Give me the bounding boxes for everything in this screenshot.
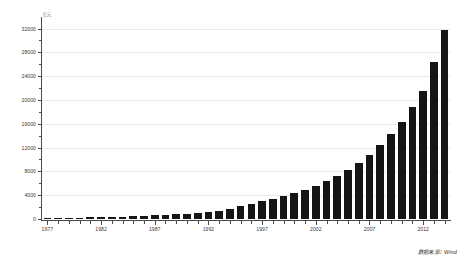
x-axis-label: 2012	[417, 226, 429, 233]
bar	[226, 209, 234, 219]
y-axis-label: 20000	[0, 97, 36, 103]
x-axis-tick	[359, 221, 360, 224]
x-axis-tick	[112, 221, 113, 224]
x-axis-tick	[327, 221, 328, 224]
x-axis-tick	[305, 221, 306, 224]
x-axis-label: 2002	[310, 226, 322, 233]
x-axis-tick	[273, 221, 274, 224]
x-axis-label: 1982	[95, 226, 107, 233]
bar	[194, 213, 202, 219]
x-axis-tick	[219, 221, 220, 224]
x-axis-tick-major	[155, 221, 156, 225]
plot-area	[42, 19, 450, 219]
bar	[409, 107, 417, 219]
x-axis-tick	[445, 221, 446, 224]
x-axis-tick	[284, 221, 285, 224]
bar	[86, 217, 94, 219]
bar	[97, 217, 105, 219]
bar	[258, 201, 266, 219]
x-axis-tick	[380, 221, 381, 224]
bar	[54, 218, 62, 219]
x-axis-label: 1977	[42, 226, 54, 233]
x-axis-label: 2007	[364, 226, 376, 233]
bar	[323, 181, 331, 219]
x-axis-tick	[69, 221, 70, 224]
bar	[333, 176, 341, 219]
x-axis-label: 1992	[203, 226, 215, 233]
source-value: Wind	[444, 249, 457, 255]
bar	[376, 145, 384, 219]
source-label: 数据来源：	[418, 249, 444, 255]
x-axis-tick	[80, 221, 81, 224]
x-axis-line	[41, 220, 451, 221]
bar	[430, 62, 438, 219]
x-axis-tick	[230, 221, 231, 224]
x-axis-tick	[348, 221, 349, 224]
bar	[215, 211, 223, 219]
bar	[355, 163, 363, 219]
y-axis-label: 32000	[0, 26, 36, 32]
x-axis-tick	[294, 221, 295, 224]
bar	[65, 218, 73, 219]
y-axis-label: 12000	[0, 145, 36, 151]
bar	[172, 214, 180, 219]
x-axis-tick	[176, 221, 177, 224]
bar	[312, 186, 320, 219]
bar	[269, 199, 277, 219]
source-note: 数据来源：Wind	[418, 248, 457, 256]
y-axis-label: 4000	[0, 192, 36, 198]
x-axis-tick	[198, 221, 199, 224]
bar	[151, 215, 159, 219]
y-axis-label: 0	[0, 216, 36, 222]
bar	[237, 206, 245, 219]
x-axis-tick-major	[208, 221, 209, 225]
x-axis-tick	[412, 221, 413, 224]
bar	[44, 218, 52, 219]
bar	[441, 30, 449, 219]
bar	[76, 218, 84, 219]
bar	[140, 216, 148, 219]
bar	[344, 170, 352, 219]
bar	[419, 91, 427, 219]
x-axis-tick	[391, 221, 392, 224]
bar	[280, 196, 288, 219]
x-axis-tick-major	[369, 221, 370, 225]
bar	[205, 212, 213, 219]
x-axis-tick	[402, 221, 403, 224]
x-axis-label: 1997	[256, 226, 268, 233]
bar	[183, 214, 191, 219]
x-axis-tick-major	[47, 221, 48, 225]
x-axis-tick	[144, 221, 145, 224]
bar	[129, 216, 137, 219]
y-axis-label: 8000	[0, 168, 36, 174]
x-axis-label: 1987	[149, 226, 161, 233]
y-axis-unit-label: 亿元	[43, 12, 51, 18]
x-axis-tick	[133, 221, 134, 224]
bar	[301, 190, 309, 219]
x-axis-tick	[251, 221, 252, 224]
x-axis-tick-major	[316, 221, 317, 225]
x-axis-tick	[123, 221, 124, 224]
x-axis-tick	[434, 221, 435, 224]
bar	[387, 134, 395, 219]
bar	[398, 122, 406, 219]
x-axis-tick	[241, 221, 242, 224]
y-axis-label: 28000	[0, 49, 36, 55]
x-axis-tick	[58, 221, 59, 224]
x-axis-tick-major	[423, 221, 424, 225]
bar	[290, 193, 298, 219]
bar	[108, 217, 116, 219]
x-axis-tick-major	[262, 221, 263, 225]
bar	[162, 215, 170, 219]
x-axis-tick	[90, 221, 91, 224]
y-axis-label: 24000	[0, 73, 36, 79]
x-axis-tick	[337, 221, 338, 224]
x-axis-tick-major	[101, 221, 102, 225]
x-axis-tick	[165, 221, 166, 224]
bar	[248, 204, 256, 219]
bar	[366, 155, 374, 219]
x-axis-tick	[187, 221, 188, 224]
bar-chart: 亿元 0400080001200016000200002400028000320…	[0, 0, 469, 262]
bar	[119, 217, 127, 219]
y-axis-label: 16000	[0, 121, 36, 127]
